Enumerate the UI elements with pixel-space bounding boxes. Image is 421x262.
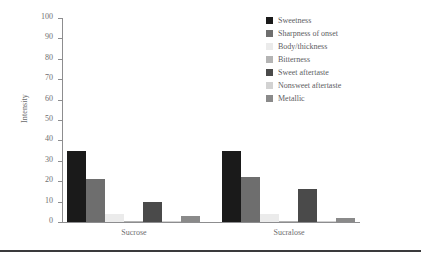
- y-axis-tick-label: 0: [49, 216, 53, 225]
- legend-swatch-icon: [266, 82, 273, 89]
- legend-item: Sharpness of onset: [266, 27, 416, 40]
- bar: [143, 202, 162, 222]
- y-axis-title: Intensity: [20, 69, 29, 149]
- legend-swatch-icon: [266, 56, 273, 63]
- legend-item-label: Bitterness: [278, 55, 310, 64]
- legend-item-label: Sharpness of onset: [278, 29, 338, 38]
- legend-item: Metallic: [266, 92, 416, 105]
- y-axis-tick-mark: [58, 222, 62, 223]
- x-axis-line: [62, 222, 360, 223]
- legend-swatch-icon: [266, 69, 273, 76]
- bar: [298, 189, 317, 222]
- y-axis-tick-label: 50: [45, 114, 53, 123]
- y-axis-tick-label: 90: [45, 32, 53, 41]
- legend-item-label: Metallic: [278, 94, 305, 103]
- x-axis-tick-label: Sucralose: [219, 228, 359, 237]
- legend-item: Sweet aftertaste: [266, 66, 416, 79]
- bar: [67, 151, 86, 222]
- bar: [181, 216, 200, 222]
- bar: [162, 221, 181, 222]
- chart-legend: SweetnessSharpness of onsetBody/thicknes…: [266, 14, 416, 105]
- legend-item: Sweetness: [266, 14, 416, 27]
- legend-item: Nonsweet aftertaste: [266, 79, 416, 92]
- bar-group-bars: [67, 18, 200, 222]
- legend-item-label: Nonsweet aftertaste: [278, 81, 341, 90]
- legend-item: Bitterness: [266, 53, 416, 66]
- y-axis-tick-label: 10: [45, 196, 53, 205]
- y-axis-tick-label: 20: [45, 175, 53, 184]
- y-axis-tick-label: 70: [45, 73, 53, 82]
- legend-swatch-icon: [266, 95, 273, 102]
- y-axis-tick-label: 100: [41, 12, 53, 21]
- bar: [260, 214, 279, 222]
- legend-swatch-icon: [266, 30, 273, 37]
- bar: [336, 218, 355, 222]
- x-axis-tick-label: Sucrose: [64, 228, 204, 237]
- bar: [222, 151, 241, 222]
- bar-chart-figure: Intensity 0102030405060708090100 Sucrose…: [0, 0, 421, 262]
- y-axis-tick-label: 80: [45, 53, 53, 62]
- bar: [105, 214, 124, 222]
- bar: [279, 221, 298, 222]
- y-axis-tick-label: 30: [45, 155, 53, 164]
- bar: [317, 221, 336, 222]
- bottom-divider-rule: [0, 250, 421, 252]
- bar: [124, 221, 143, 222]
- legend-item-label: Body/thickness: [278, 42, 327, 51]
- y-axis-tick-label: 40: [45, 134, 53, 143]
- bar: [241, 177, 260, 222]
- y-axis-tick-label: 60: [45, 94, 53, 103]
- legend-item-label: Sweet aftertaste: [278, 68, 329, 77]
- bar: [86, 179, 105, 222]
- legend-item: Body/thickness: [266, 40, 416, 53]
- legend-swatch-icon: [266, 17, 273, 24]
- legend-swatch-icon: [266, 43, 273, 50]
- legend-item-label: Sweetness: [278, 16, 311, 25]
